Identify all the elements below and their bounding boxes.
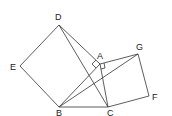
label-f: F [152,92,158,102]
square-abde [20,25,100,107]
label-a: A [97,51,103,61]
segment-ag [100,54,138,64]
segment-fc [108,96,149,107]
segment-bg [59,54,138,107]
square-acfg [100,54,149,107]
segment-ad [59,25,100,64]
geometry-diagram: D E B C A G F [0,0,172,116]
right-angle-marker-abd [92,60,96,68]
label-c: C [107,108,114,116]
label-e: E [10,62,16,72]
segment-de [20,25,59,66]
segment-eb [20,66,59,107]
segment-gf [138,54,149,96]
segment-ba [59,64,100,107]
label-d: D [55,12,62,22]
label-g: G [136,42,143,52]
label-b: B [56,108,62,116]
